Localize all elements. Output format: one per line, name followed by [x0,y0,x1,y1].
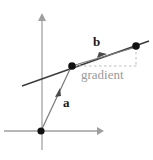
gradient-line-diagram: a b gradient [0,0,153,160]
gradient-label: gradient [81,68,124,81]
diagram-canvas [0,0,153,160]
vector-b-shaft [75,48,133,65]
vector-b-label: b [93,35,100,48]
point-a [68,62,76,70]
x-axis-arrow-icon [97,127,104,135]
vector-a-arrowhead-icon [55,88,61,97]
y-axis-arrow-icon [38,13,46,21]
point-b [132,42,140,50]
origin-point [37,127,44,134]
vector-b-group [75,48,133,65]
vector-a-label: a [63,96,70,109]
